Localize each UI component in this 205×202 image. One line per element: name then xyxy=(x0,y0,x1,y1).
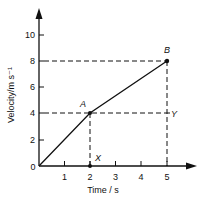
y-axis xyxy=(36,8,45,166)
point-x-marker xyxy=(88,164,92,168)
point-a-marker xyxy=(88,111,92,115)
x-tick-2: 2 xyxy=(87,172,92,182)
x-axis-arrow-icon xyxy=(186,163,197,170)
point-a-label: A xyxy=(79,99,86,109)
x-tick-5: 5 xyxy=(164,172,169,182)
y-tick-6: 6 xyxy=(30,82,35,92)
y-tick-8: 8 xyxy=(30,56,35,66)
x-axis xyxy=(39,161,197,170)
y-axis-arrow-icon xyxy=(36,8,43,19)
guide-lines xyxy=(44,61,167,166)
y-axis-label: Velocity/m s⁻¹ xyxy=(6,67,16,123)
x-tick-3: 3 xyxy=(113,172,118,182)
origin-label: 0 xyxy=(30,162,35,172)
y-tick-4: 4 xyxy=(30,108,35,118)
point-y-label: Y xyxy=(171,109,178,119)
point-b-marker xyxy=(165,59,169,63)
point-x-label: X xyxy=(94,153,102,163)
x-axis-label: Time / s xyxy=(87,185,119,195)
x-tick-1: 1 xyxy=(62,172,67,182)
point-b-label: B xyxy=(164,45,170,55)
y-tick-2: 2 xyxy=(30,135,35,145)
x-tick-4: 4 xyxy=(138,172,143,182)
y-tick-10: 10 xyxy=(25,30,35,40)
velocity-time-chart: 0 1 2 3 4 5 2 4 6 8 10 A B X Y Time / s … xyxy=(0,0,205,202)
